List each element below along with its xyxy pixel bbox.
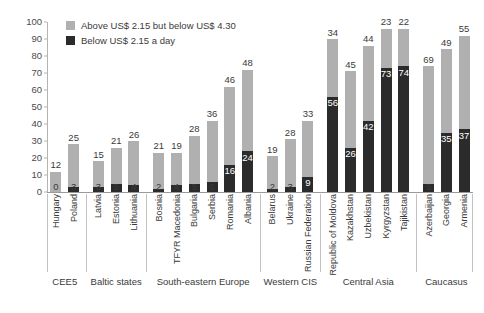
bar-value-above: 19 — [171, 141, 182, 151]
bar-value-above: 12 — [51, 160, 62, 170]
bar-value-below: 16 — [225, 166, 236, 176]
bar-value-below: 37 — [459, 131, 470, 141]
bar-value-below: 24 — [242, 153, 253, 163]
bar-value-above: 44 — [363, 34, 374, 44]
bar-series-container: 1202531532152642121942853664616482419228… — [47, 22, 473, 192]
category-label-text: Tajikistan — [399, 194, 408, 231]
group-separator — [86, 194, 87, 272]
bar-value-below: 3 — [287, 182, 292, 192]
bar-column: 192 — [267, 22, 278, 192]
bar-segment-above — [441, 49, 452, 132]
bar-column: 194 — [171, 22, 182, 192]
category-label-text: Kazakhstan — [346, 194, 355, 241]
bar-column: 4616 — [224, 22, 235, 192]
bar-segment-above — [423, 66, 434, 183]
category-label: Lithuania — [125, 194, 143, 266]
category-label-text: TFYR Macedonia — [172, 194, 181, 264]
category-label: Hungary — [47, 194, 65, 266]
category-label-text: Estonia — [112, 194, 121, 224]
stacked-bar-chart: Above US$ 2.15 but below US$ 4.30 Below … — [0, 0, 484, 313]
group-separator — [416, 194, 417, 272]
bar-segment-above — [207, 121, 218, 182]
y-tick-label: 0 — [37, 187, 42, 197]
bar-value-above: 21 — [111, 136, 122, 146]
bar-value-below: 0 — [53, 182, 58, 192]
y-tick-label: 60 — [31, 85, 42, 95]
y-tick-label: 20 — [31, 153, 42, 163]
bar-value-above: 19 — [267, 145, 278, 155]
bar-value-above: 45 — [345, 60, 356, 70]
bar-column: 120 — [50, 22, 61, 192]
bar-column: 3456 — [327, 22, 338, 192]
bar-value-above: 46 — [225, 75, 236, 85]
y-tick-label: 10 — [31, 170, 42, 180]
bar-value-below: 2 — [156, 182, 161, 192]
category-label-text: Bosnia — [154, 194, 163, 222]
bar-segment-above — [111, 148, 122, 184]
y-tick-label: 40 — [31, 119, 42, 129]
bar-value-above: 69 — [423, 55, 434, 65]
bar-segment-above — [302, 121, 313, 177]
bar-value-below: 5 — [426, 182, 431, 192]
category-label: Poland — [65, 194, 83, 266]
group-labels: CEE5Baltic statesSouth-eastern EuropeWes… — [47, 276, 473, 292]
bar-column: 285 — [189, 22, 200, 192]
y-tick-label: 100 — [26, 17, 42, 27]
bar-value-below: 35 — [441, 134, 452, 144]
plot-area: 0102030405060708090100 12025315321526421… — [47, 22, 473, 192]
bar-segment-above — [128, 141, 139, 185]
bar-column: 2373 — [381, 22, 392, 192]
category-label: Bulgaria — [185, 194, 203, 266]
category-label: Kyrgyzstan — [377, 194, 395, 266]
bar-segment-above — [327, 39, 338, 97]
category-label: Tajikistan — [395, 194, 413, 266]
bar-column: 695 — [423, 22, 434, 192]
bar-value-below: 3 — [71, 182, 76, 192]
category-label: Georgia — [437, 194, 455, 266]
bar-column: 366 — [207, 22, 218, 192]
category-label: Russian Federation — [299, 194, 317, 266]
bar-value-above: 28 — [285, 128, 296, 138]
bar-value-below: 4 — [131, 182, 136, 192]
bar-column: 339 — [302, 22, 313, 192]
bar-value-above: 15 — [93, 150, 104, 160]
category-label-text: Bulgaria — [190, 194, 199, 227]
category-label-text: Belarus — [268, 194, 277, 225]
bar-value-above: 21 — [153, 141, 164, 151]
bar-value-above: 23 — [381, 17, 392, 27]
category-label-text: Romania — [225, 194, 234, 230]
category-label-text: Serbia — [208, 194, 217, 220]
category-label-text: Albania — [243, 194, 252, 224]
bar-value-below: 73 — [381, 69, 392, 79]
bar-value-below: 4 — [174, 182, 179, 192]
bar-value-below: 2 — [270, 182, 275, 192]
category-label-text: Kyrgyzstan — [382, 194, 391, 239]
bar-column: 5537 — [459, 22, 470, 192]
y-tick-label: 50 — [31, 102, 42, 112]
bar-value-above: 48 — [242, 58, 253, 68]
category-label: Republic of Moldova — [324, 194, 342, 266]
bar-segment-above — [381, 29, 392, 68]
bar-value-above: 25 — [68, 133, 79, 143]
x-axis-baseline — [47, 192, 473, 193]
y-tick-label: 80 — [31, 51, 42, 61]
bar-value-above: 36 — [207, 109, 218, 119]
group-separator — [146, 194, 147, 272]
bar-column: 264 — [128, 22, 139, 192]
bar-column: 283 — [285, 22, 296, 192]
bar-segment-below — [398, 66, 409, 192]
bar-column: 153 — [93, 22, 104, 192]
bar-value-above: 26 — [129, 130, 140, 140]
bar-value-above: 55 — [459, 24, 470, 34]
bar-segment-above — [224, 87, 235, 165]
y-tick-label: 30 — [31, 136, 42, 146]
category-label: Armenia — [455, 194, 473, 266]
bar-value-above: 33 — [303, 109, 314, 119]
bar-column: 215 — [111, 22, 122, 192]
bar-column: 4935 — [441, 22, 452, 192]
bar-segment-below — [381, 68, 392, 192]
group-label: South-eastern Europe — [150, 276, 257, 288]
category-label: Romania — [221, 194, 239, 266]
bar-segment-above — [363, 46, 374, 121]
group-separator — [260, 194, 261, 272]
